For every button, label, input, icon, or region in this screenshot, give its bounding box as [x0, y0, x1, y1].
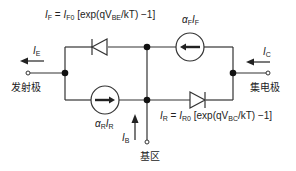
emitter-node: [62, 70, 69, 77]
top-middle-node: [144, 44, 151, 51]
forward-current-source-icon: [176, 33, 204, 61]
collector-terminal: [266, 71, 270, 75]
forward-diode-icon: [92, 39, 107, 55]
collector-current-label: IC: [263, 46, 271, 58]
base-current-arrow-icon: [132, 114, 139, 140]
base-terminal-label: 基区: [140, 148, 160, 163]
reverse-diode-icon: [190, 92, 205, 108]
forward-source-label: αFIF: [182, 14, 199, 26]
reverse-source-label: αRIR: [95, 118, 114, 130]
collector-node: [230, 70, 237, 77]
reverse-diode-equation: IR = IR0 [exp(qVBC/kT) −1]: [160, 110, 272, 122]
emitter-current-arrow-icon: [20, 58, 44, 65]
forward-diode-equation: IF = IF0 [exp(qVBE/kT) −1]: [45, 9, 155, 21]
emitter-terminal: [26, 71, 30, 75]
base-node: [144, 97, 151, 104]
emitter-terminal-label: 发射极: [11, 79, 41, 94]
reverse-current-source-icon: [91, 86, 119, 114]
base-current-label: IB: [122, 132, 129, 144]
collector-current-arrow-icon: [246, 59, 270, 66]
base-terminal: [145, 140, 149, 144]
collector-terminal-label: 集电极: [250, 79, 280, 94]
emitter-current-label: IE: [33, 45, 40, 57]
